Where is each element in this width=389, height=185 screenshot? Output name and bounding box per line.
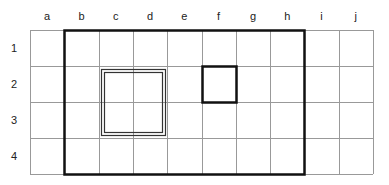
column-label-a: a bbox=[44, 10, 51, 22]
row-label-2: 2 bbox=[11, 78, 17, 90]
column-label-f: f bbox=[217, 10, 221, 22]
column-label-g: g bbox=[250, 10, 256, 22]
row-label-1: 1 bbox=[11, 42, 17, 54]
row-labels: 1234 bbox=[11, 42, 17, 162]
thick-cell-f2 bbox=[203, 67, 237, 103]
row-label-4: 4 bbox=[11, 150, 17, 162]
row-label-3: 3 bbox=[11, 114, 17, 126]
column-labels: abcdefghij bbox=[44, 10, 357, 22]
column-label-b: b bbox=[78, 10, 84, 22]
column-label-i: i bbox=[320, 10, 322, 22]
column-label-h: h bbox=[284, 10, 290, 22]
column-label-e: e bbox=[181, 10, 187, 22]
column-label-d: d bbox=[147, 10, 153, 22]
column-label-j: j bbox=[354, 10, 357, 22]
column-label-c: c bbox=[113, 10, 119, 22]
grid-diagram: abcdefghij 1234 bbox=[0, 0, 389, 185]
